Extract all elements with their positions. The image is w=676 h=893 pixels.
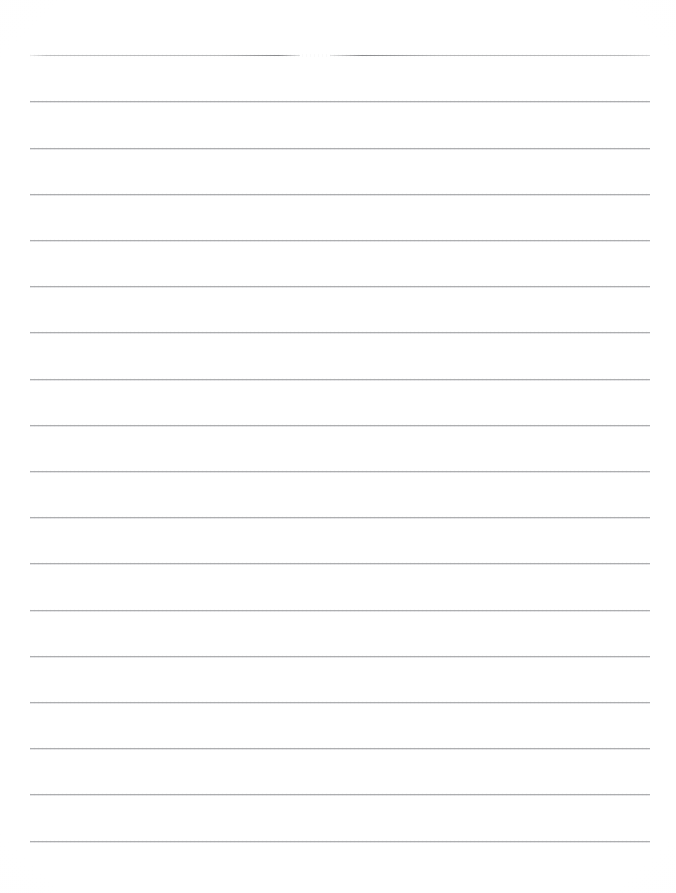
rule-line-segment — [330, 55, 650, 56]
rule-line — [30, 702, 650, 703]
rule-line — [30, 286, 650, 287]
rule-line — [30, 101, 650, 102]
rule-line — [30, 425, 650, 426]
rule-line — [30, 332, 650, 333]
rule-line — [30, 240, 650, 241]
rule-line — [30, 379, 650, 380]
rule-line-segment — [30, 55, 300, 56]
rule-line — [30, 610, 650, 611]
rule-line — [30, 656, 650, 657]
rule-line — [30, 841, 650, 842]
ruled-lines-layer — [0, 0, 676, 893]
rule-line — [30, 194, 650, 195]
lined-paper-page — [0, 0, 676, 893]
rule-line — [30, 563, 650, 564]
rule-line — [30, 471, 650, 472]
rule-line — [30, 748, 650, 749]
rule-line — [30, 794, 650, 795]
rule-line — [30, 148, 650, 149]
rule-line — [30, 517, 650, 518]
rule-line — [30, 55, 650, 56]
